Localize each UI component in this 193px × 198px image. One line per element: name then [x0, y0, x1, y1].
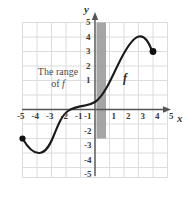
left-endpoint-dot: [19, 135, 25, 141]
y-tick-neg5: -5: [84, 170, 92, 179]
y-tick-neg2: -2: [84, 127, 92, 136]
y-tick-3: 3: [86, 47, 91, 56]
x-tick-neg3: -3: [46, 112, 54, 121]
x-tick-1: 1: [112, 112, 117, 121]
y-tick-5: 5: [86, 18, 91, 27]
range-annotation-line2-italic: f: [62, 78, 65, 89]
y-axis-label: y: [84, 4, 89, 15]
y-tick-neg1: -1: [84, 112, 92, 121]
right-endpoint-dot: [150, 48, 157, 55]
function-graph-figure: [0, 0, 193, 198]
x-tick-3: 3: [141, 112, 146, 121]
y-tick-neg4: -4: [84, 156, 92, 165]
x-tick-neg1: -1: [75, 112, 83, 121]
x-tick-neg4: -4: [32, 112, 40, 121]
range-annotation: The range of f: [26, 66, 90, 89]
x-tick-neg5: -5: [17, 112, 25, 121]
range-band: [97, 23, 107, 139]
curve-label: f: [123, 72, 127, 84]
range-annotation-line1: The range: [38, 66, 78, 77]
y-tick-4: 4: [86, 33, 91, 42]
y-axis-arrowhead: [92, 12, 98, 20]
x-tick-neg2: -2: [61, 112, 69, 121]
range-annotation-line2-prefix: of: [51, 78, 62, 89]
x-tick-4: 4: [155, 112, 160, 121]
y-tick-neg3: -3: [84, 141, 92, 150]
x-tick-5: 5: [169, 112, 174, 121]
x-axis-label: x: [177, 113, 183, 124]
x-tick-2: 2: [126, 112, 131, 121]
